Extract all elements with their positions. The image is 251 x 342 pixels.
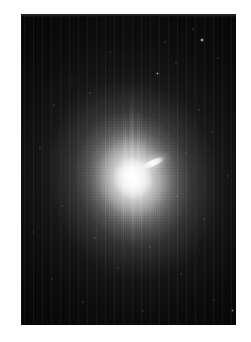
sky-background bbox=[21, 14, 236, 325]
galaxy-astronomical-image bbox=[21, 14, 236, 325]
page-root bbox=[0, 0, 251, 342]
plate-left-edge bbox=[21, 14, 22, 325]
plate-top-edge bbox=[21, 14, 236, 17]
